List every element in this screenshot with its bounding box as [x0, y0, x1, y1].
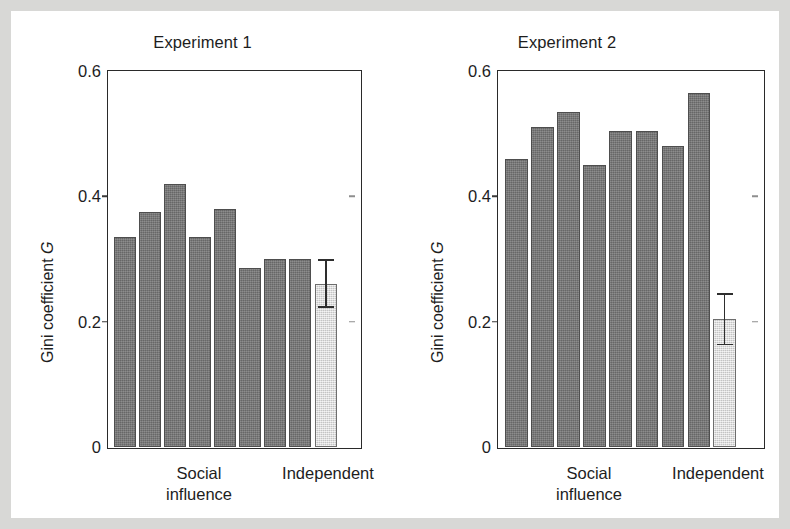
y-tick-label: 0.6: [468, 62, 491, 81]
y-axis-ticks: 00.20.40.6: [445, 70, 491, 449]
bar-social-influence: [189, 237, 211, 447]
bar-social-influence: [531, 127, 554, 447]
chart-panel-experiment-2: Experiment 2 Gini coefficient G 00.20.40…: [361, 11, 790, 518]
bar-social-influence: [609, 131, 632, 447]
bar-social-influence: [114, 237, 136, 447]
y-tick-label: 0: [482, 438, 491, 457]
y-tick-label: 0: [92, 438, 101, 457]
error-bar-cap-upper: [318, 259, 334, 261]
bar-social-influence: [688, 93, 711, 447]
bar-social-influence: [557, 112, 580, 447]
error-bar-stem: [724, 293, 726, 343]
bar-social-influence: [636, 131, 659, 447]
bar-social-influence: [164, 184, 186, 447]
error-bar-cap-lower: [318, 306, 334, 308]
bar-social-influence: [214, 209, 236, 447]
bar-social-influence: [239, 268, 261, 447]
bar-independent: [315, 284, 337, 447]
error-bar-stem: [325, 259, 327, 306]
y-tick-label: 0.2: [468, 312, 491, 331]
plot-area: [498, 71, 763, 447]
bar-social-influence: [139, 212, 161, 447]
bar-social-influence: [662, 146, 685, 447]
panel-title: Experiment 1: [5, 33, 400, 52]
bar-social-influence: [289, 259, 311, 447]
figure-container: Experiment 1 Gini coefficient G 00.20.40…: [0, 0, 790, 529]
y-tick-label: 0.2: [78, 312, 101, 331]
error-bar-cap-upper: [717, 293, 733, 295]
plot-area: [108, 71, 360, 447]
panel-title: Experiment 2: [347, 33, 787, 52]
chart-panel-experiment-1: Experiment 1 Gini coefficient G 00.20.40…: [11, 11, 406, 518]
x-label-social: Social influence: [529, 463, 649, 505]
bar-social-influence: [583, 165, 606, 447]
bar-social-influence: [264, 259, 286, 447]
x-label-independent: Independent: [653, 463, 783, 484]
x-label-social: Social influence: [139, 463, 259, 505]
y-tick-label: 0.4: [468, 187, 491, 206]
y-tick-label: 0.4: [78, 187, 101, 206]
y-axis-ticks: 00.20.40.6: [55, 70, 101, 449]
y-tick-label: 0.6: [78, 62, 101, 81]
error-bar-cap-lower: [717, 344, 733, 346]
figure-canvas: Experiment 1 Gini coefficient G 00.20.40…: [11, 11, 779, 518]
bar-social-influence: [505, 159, 528, 447]
